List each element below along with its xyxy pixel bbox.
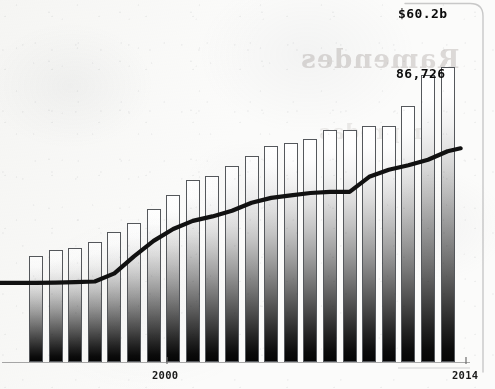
- bar-end-value-label: 86,726: [396, 66, 445, 81]
- line-series-path: [0, 148, 461, 283]
- line-series-layer: [0, 0, 495, 389]
- chart-page: Ramendes mpredas $60.2b 86,726 2000 2014: [0, 0, 495, 389]
- x-tick-label-2014: 2014: [452, 369, 479, 381]
- chart-plot-area: [0, 0, 495, 389]
- line-end-value-label: $60.2b: [398, 6, 447, 21]
- x-tick-label-2000: 2000: [152, 369, 179, 381]
